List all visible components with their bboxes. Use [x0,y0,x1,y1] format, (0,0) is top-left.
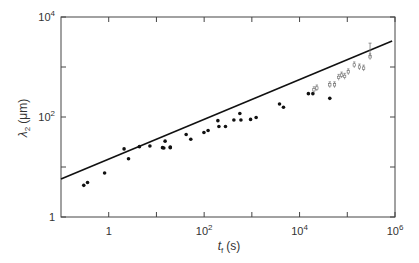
data-point [216,119,220,123]
data-point [184,133,188,137]
tick-label: 104 [38,9,55,23]
x-axis-title: tf(s) [218,239,241,255]
data-point [329,84,331,86]
data-point [82,184,86,188]
data-point [239,118,243,122]
data-point [347,71,349,73]
tick-label: 106 [387,223,404,237]
data-point [206,129,210,133]
data-point [362,67,364,69]
data-point [340,74,342,76]
data-point [168,145,172,149]
data-point [103,171,107,175]
data-point [307,92,311,96]
tick-label: 102 [38,109,55,123]
data-point [238,112,242,116]
data-points [82,43,372,187]
data-point [127,157,131,161]
fit-line [61,41,392,179]
data-point [86,181,90,185]
data-point [353,64,355,66]
data-point [313,89,315,91]
tick-label: 1 [106,225,112,237]
y-axis-title: λ2(μm) [16,99,32,138]
data-point [333,84,335,86]
data-point [328,97,332,101]
data-point [162,146,166,150]
tick-label: 104 [291,223,308,237]
data-point [282,105,286,109]
data-point [343,75,345,77]
data-point [337,76,339,78]
plot-frame [61,17,395,217]
data-point [358,66,360,68]
tick-label: 102 [196,223,213,237]
data-point [224,125,228,129]
tick-label: 1 [49,211,55,223]
axis-ticks [61,17,395,217]
data-point [316,87,318,89]
data-point [148,144,152,148]
data-point [249,118,253,122]
chart: 11021041061102104 tf(s) λ2(μm) [0,0,419,263]
data-point [217,125,221,129]
data-point [189,137,193,141]
data-point [138,145,142,149]
data-point [278,102,282,106]
data-point [254,116,258,120]
data-point [232,118,236,122]
data-point [122,147,126,151]
data-point [163,139,167,143]
data-point [202,131,206,135]
axis-tick-labels: 11021041061102104 [38,9,404,237]
